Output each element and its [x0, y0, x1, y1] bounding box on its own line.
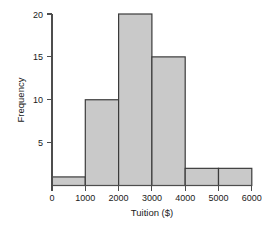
x-axis-title: Tuition ($)	[131, 207, 173, 218]
y-tick-label-5: 5	[38, 138, 43, 148]
x-tick-label-0: 0	[49, 193, 54, 203]
histogram-canvas: 20 15 10 5 Frequency 0 1000 2000 3000 40…	[0, 0, 271, 232]
x-tick-label-3000: 3000	[142, 193, 162, 203]
x-tick-label-2000: 2000	[109, 193, 129, 203]
bar-1000-2000	[85, 100, 118, 186]
bar-2000-3000	[119, 14, 152, 186]
x-tick-label-5000: 5000	[208, 193, 228, 203]
y-tick-label-15: 15	[33, 52, 43, 62]
bar-0-1000	[52, 177, 85, 186]
bar-4000-5000	[185, 168, 218, 185]
bar-5000-6000	[219, 168, 252, 185]
y-tick-label-20: 20	[33, 10, 43, 20]
bar-3000-4000	[152, 57, 185, 186]
x-tick-label-1000: 1000	[75, 193, 95, 203]
histogram-figure: 20 15 10 5 Frequency 0 1000 2000 3000 40…	[0, 0, 271, 232]
x-tick-label-6000: 6000	[242, 193, 262, 203]
y-tick-label-10: 10	[33, 95, 43, 105]
x-tick-label-4000: 4000	[175, 193, 195, 203]
y-axis-title: Frequency	[15, 77, 26, 122]
